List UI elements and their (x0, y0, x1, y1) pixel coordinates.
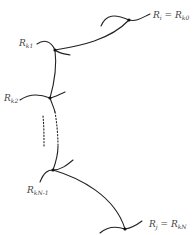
diagram-canvas (0, 0, 196, 235)
edge-n3-n4 (53, 170, 125, 229)
region-boundary-n4 (100, 221, 142, 233)
node-dot-n4 (123, 227, 126, 230)
region-chain-diagram: Ri = Rk0 Rk1 Rk2 RkN-1 Rj = RkN (0, 0, 196, 235)
node-dot-n0 (127, 18, 130, 21)
edge-n3-in (53, 146, 58, 170)
label-node-4: Rj = RkN (149, 220, 187, 230)
label-node-3: RkN-1 (27, 186, 49, 196)
node-dot-n1 (53, 48, 56, 51)
edge-n0-n1 (55, 20, 129, 50)
region-boundary-n2 (20, 92, 65, 100)
edge-guide-dotted (43, 116, 44, 146)
node-dot-n2 (48, 96, 51, 99)
region-boundary-n0 (101, 14, 150, 26)
label-node-0: Ri = Rk0 (153, 11, 189, 21)
edge-n2-n3-dotted (55, 112, 58, 146)
label-node-1: Rk1 (19, 39, 33, 49)
edge-n2-n2ext (50, 98, 55, 112)
edge-n1-n2 (50, 50, 56, 98)
label-node-2: Rk2 (4, 94, 18, 104)
node-dot-n3 (51, 168, 54, 171)
